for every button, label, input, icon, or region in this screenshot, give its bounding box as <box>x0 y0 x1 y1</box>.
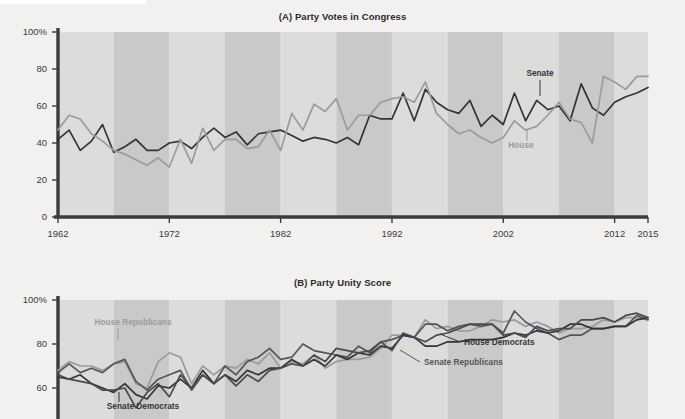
y-tick-label: 0 <box>42 211 47 222</box>
x-tick-label: 1962 <box>47 228 68 239</box>
x-tick-label: 1992 <box>381 228 402 239</box>
y-tick-label: 100% <box>23 26 48 37</box>
x-tick-label: 1982 <box>270 228 291 239</box>
senate-republicans-label: Senate Republicans <box>424 357 503 367</box>
y-tick-label: 20 <box>36 174 47 185</box>
plot-band <box>169 32 225 217</box>
house-republicans-label: House Republicans <box>95 317 172 327</box>
panel-a-plot: 100%806040200196219721982199220022012201… <box>0 0 685 262</box>
y-tick-label: 60 <box>36 382 47 393</box>
plot-band <box>615 32 648 217</box>
y-tick-label: 60 <box>36 100 47 111</box>
panel-b-plot: 100%8060House RepublicansSenate Democrat… <box>0 262 685 419</box>
panel-b-party-unity: (B) Party Unity Score 100%8060House Repu… <box>0 262 685 419</box>
y-tick-label: 100% <box>23 294 48 305</box>
y-tick-label: 40 <box>36 137 47 148</box>
panel-a-party-votes: (A) Party Votes in Congress 100%80604020… <box>0 0 685 262</box>
plot-band <box>58 32 114 217</box>
house-label: House <box>508 140 534 150</box>
x-tick-label: 2015 <box>637 228 658 239</box>
senate-label: Senate <box>526 68 554 78</box>
x-tick-label: 2002 <box>493 228 514 239</box>
plot-band <box>114 32 170 217</box>
plot-band <box>559 32 615 217</box>
x-tick-label: 2012 <box>604 228 625 239</box>
y-tick-label: 80 <box>36 338 47 349</box>
plot-band <box>392 32 448 217</box>
house-democrats-label: House Democrats <box>464 337 535 347</box>
senate-democrats-label: Senate Democrats <box>107 401 180 411</box>
plot-band <box>225 32 281 217</box>
x-tick-label: 1972 <box>159 228 180 239</box>
plot-band <box>448 32 504 217</box>
y-tick-label: 80 <box>36 63 47 74</box>
